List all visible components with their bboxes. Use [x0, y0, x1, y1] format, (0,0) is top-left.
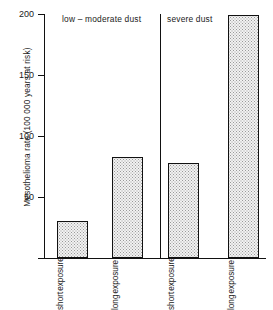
x-label-word-2: exposure — [167, 257, 176, 291]
bar-severe-short-exposure[interactable] — [168, 163, 199, 258]
y-tick-label-50: 50 — [0, 193, 34, 202]
x-label-word-1: short — [167, 292, 176, 310]
x-label-word-2: exposure — [56, 257, 65, 291]
x-label-word-2: exposure — [111, 260, 120, 294]
y-tick-label-100: 100 — [0, 132, 34, 141]
mesothelioma-bar-chart: Mesothelioma rate (100 000 years at risk… — [0, 0, 273, 310]
bar-severe-long-exposure[interactable] — [228, 15, 259, 258]
x-label-word-2: exposure — [227, 260, 236, 294]
panel-divider-line — [160, 14, 161, 258]
panel-heading-low-moderate-dust: low – moderate dust — [62, 14, 141, 24]
panel-heading-severe-dust: severe dust — [167, 14, 213, 24]
y-tick-label-200: 200 — [0, 10, 34, 19]
x-label-severe-short-exposure: short exposure — [167, 262, 201, 310]
x-label-word-1: long — [227, 295, 236, 310]
y-tick-150 — [38, 75, 45, 76]
x-label-low-moderate-short-exposure: short exposure — [56, 262, 90, 310]
y-tick-50 — [38, 197, 45, 198]
y-tick-100 — [38, 136, 45, 137]
x-label-word-1: long — [111, 295, 120, 310]
x-label-word-1: short — [56, 292, 65, 310]
x-label-low-moderate-long-exposure: long exposure — [111, 262, 145, 310]
x-label-severe-long-exposure: long exposure — [227, 262, 261, 310]
y-tick-200 — [38, 14, 45, 15]
y-tick-label-150: 150 — [0, 71, 34, 80]
y-axis-title: Mesothelioma rate (100 000 years at risk… — [22, 12, 32, 242]
bar-low-moderate-short-exposure[interactable] — [57, 221, 88, 258]
bar-low-moderate-long-exposure[interactable] — [112, 157, 143, 258]
